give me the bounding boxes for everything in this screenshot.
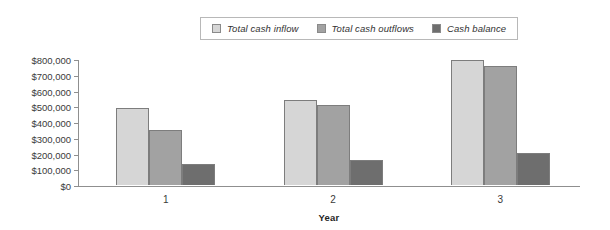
y-tick-label: $400,000	[31, 118, 71, 129]
x-tick-label: 1	[163, 194, 169, 205]
bar-group	[284, 59, 383, 185]
chart-legend: Total cash inflowTotal cash outflowsCash…	[200, 17, 518, 40]
y-tick-mark	[74, 76, 78, 77]
legend-label: Cash balance	[447, 23, 506, 34]
y-tick-label: $600,000	[31, 86, 71, 97]
x-tick-label: 3	[498, 194, 504, 205]
bar[interactable]	[116, 108, 149, 185]
y-tick-mark	[74, 123, 78, 124]
bar[interactable]	[517, 153, 550, 185]
y-tick-mark	[74, 92, 78, 93]
legend-swatch-icon	[212, 24, 221, 33]
y-tick-mark	[74, 155, 78, 156]
y-tick-label: $700,000	[31, 70, 71, 81]
bar[interactable]	[317, 105, 350, 185]
legend-item[interactable]: Total cash inflow	[212, 23, 299, 34]
legend-swatch-icon	[432, 24, 441, 33]
y-tick-label: $500,000	[31, 102, 71, 113]
plot-area: $0$100,000$200,000$300,000$400,000$500,0…	[78, 60, 580, 186]
bar[interactable]	[182, 164, 215, 185]
bar-group	[116, 59, 215, 185]
bar[interactable]	[484, 66, 517, 185]
bar[interactable]	[451, 60, 484, 185]
bar-group	[451, 59, 550, 185]
legend-label: Total cash outflows	[332, 23, 414, 34]
bar[interactable]	[284, 100, 317, 185]
legend-item[interactable]: Cash balance	[432, 23, 506, 34]
y-tick-mark	[74, 186, 78, 187]
y-tick-label: $100,000	[31, 165, 71, 176]
y-tick-label: $800,000	[31, 55, 71, 66]
y-tick-mark	[74, 170, 78, 171]
y-tick-mark	[74, 60, 78, 61]
y-tick-label: $0	[60, 181, 71, 192]
bar[interactable]	[149, 130, 182, 185]
x-axis-line	[78, 186, 580, 187]
x-tick-label: 2	[330, 194, 336, 205]
x-axis-title: Year	[78, 212, 580, 223]
y-axis-line	[78, 60, 79, 186]
legend-label: Total cash inflow	[227, 23, 299, 34]
bar[interactable]	[350, 160, 383, 186]
y-tick-label: $200,000	[31, 149, 71, 160]
bar-chart: Total cash inflowTotal cash outflowsCash…	[0, 0, 610, 230]
legend-swatch-icon	[317, 24, 326, 33]
y-tick-mark	[74, 107, 78, 108]
legend-item[interactable]: Total cash outflows	[317, 23, 414, 34]
y-tick-label: $300,000	[31, 133, 71, 144]
y-tick-mark	[74, 139, 78, 140]
